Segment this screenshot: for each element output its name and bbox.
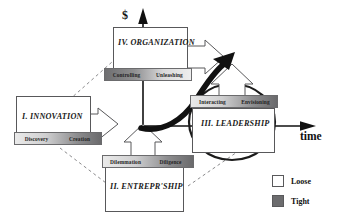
sublabel-diligence: Diligence xyxy=(148,159,193,165)
legend-label-tight: Tight xyxy=(291,197,310,206)
legend-swatch-loose-icon xyxy=(272,175,284,187)
vertical-axis-arrowhead xyxy=(138,8,148,24)
quadrant-title-innovation: I. INNOVATION xyxy=(22,112,83,121)
sublabel-unleashing: Unleashing xyxy=(148,72,191,78)
sublabel-dilemmation: Dilemmation xyxy=(103,159,148,165)
legend: Loose Tight xyxy=(272,171,338,211)
quadrant-subbar-innovation[interactable]: Discovery Creation xyxy=(14,132,102,145)
quadrant-subbar-organization[interactable]: Controlling Unleashing xyxy=(104,68,192,81)
legend-item-loose[interactable]: Loose xyxy=(272,171,338,191)
legend-swatch-tight-icon xyxy=(272,195,284,207)
dashed-link-entrepreneurship-leadership xyxy=(188,150,240,186)
quadrant-title-leadership: III. LEADERSHIP xyxy=(201,119,270,128)
quadrant-title-entrepreneurship: II. ENTREPR'SHIP xyxy=(110,182,183,191)
sublabel-creation: Creation xyxy=(58,136,101,142)
quadrant-subbar-leadership[interactable]: Interacting Envisioning xyxy=(190,95,278,108)
sublabel-controlling: Controlling xyxy=(105,72,148,78)
quadrant-subbar-entrepreneurship[interactable]: Dilemmation Diligence xyxy=(102,155,194,168)
legend-label-loose: Loose xyxy=(291,177,311,186)
quadrant-box-leadership[interactable] xyxy=(192,108,275,153)
sublabel-interacting: Interacting xyxy=(191,99,234,105)
sublabel-envisioning: Envisioning xyxy=(234,99,277,105)
diagram-canvas: IV. ORGANIZATION Controlling Unleashing … xyxy=(0,0,341,222)
axis-label-time: time xyxy=(300,130,322,142)
sublabel-discovery: Discovery xyxy=(15,136,58,142)
legend-item-tight[interactable]: Tight xyxy=(272,191,338,211)
quadrant-title-organization: IV. ORGANIZATION xyxy=(118,38,195,47)
axis-label-money: $ xyxy=(122,8,128,23)
